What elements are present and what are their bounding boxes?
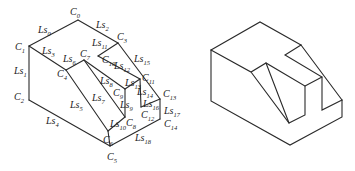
edge-label-ls17: Ls17 [163,105,181,118]
edge-label-ls11: Ls11 [91,37,107,50]
edge-label-ls0: Ls0 [37,24,51,37]
edge-label-ls18: Ls18 [134,132,152,145]
edge-label-ls8: Ls8 [99,75,113,88]
vertex-label-c6: C6 [103,134,114,147]
edge-label-ls9: Ls9 [119,99,133,112]
edge-label-ls6: Ls6 [62,53,76,66]
vertex-label-c1: C1 [15,41,25,54]
vertex-label-c11: C11 [142,72,155,85]
edge-label-ls1: Ls1 [13,65,27,78]
labeled-solid-annotations: C0C1C2C3C4C5C6C7C8C9C10C11C12C13C14Ls0Ls… [13,6,181,164]
edge-label-ls2: Ls2 [95,19,109,32]
vertex-label-c13: C13 [163,88,177,101]
outline-path-0 [211,22,301,50]
edge-label-ls4: Ls4 [45,115,59,128]
vertex-label-c0: C0 [70,6,81,19]
vertex-label-c8: C8 [126,117,137,130]
vertex-label-c7: C7 [80,48,91,61]
outline-path-3 [266,63,289,123]
edge-label-ls10: Ls10 [109,118,127,131]
outline-path-5 [285,45,342,110]
unlabeled-solid-diagram [211,22,342,145]
outline-path-6 [305,77,322,86]
vertex-label-c14: C14 [164,118,178,131]
vertex-label-c5: C5 [107,151,118,164]
isometric-figures: C0C1C2C3C4C5C6C7C8C9C10C11C12C13C14Ls0Ls… [0,0,355,171]
edge-label-ls3: Ls3 [41,45,55,58]
edge-label-ls7: Ls7 [91,92,105,105]
edge-label-ls15: Ls15 [133,53,151,66]
edge-label-ls12: Ls12 [113,60,131,73]
edge-ls0 [29,20,78,46]
vertex-label-c12: C12 [141,109,155,122]
vertex-label-c3: C3 [117,31,128,44]
outline-path-2 [211,50,305,123]
vertex-label-c9: C9 [113,87,124,100]
edge-label-ls5: Ls5 [69,99,83,112]
vertex-label-c2: C2 [14,91,25,104]
